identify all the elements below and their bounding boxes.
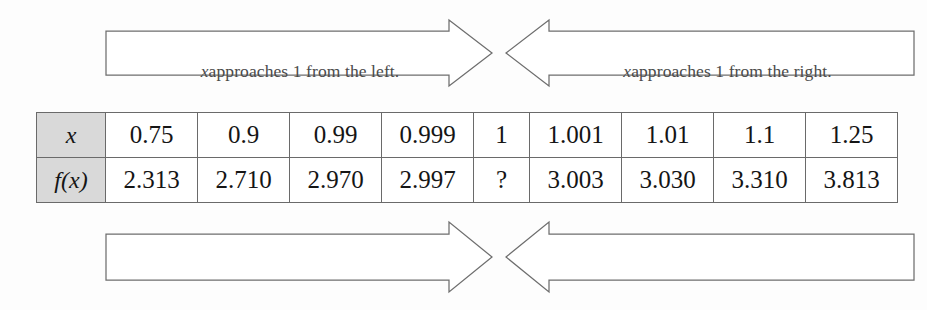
limit-table-figure: x approaches 1 from the left. x approach… [0, 0, 927, 310]
arrow-right-bottom-shape [106, 222, 492, 292]
cell-fx-4: ? [474, 158, 530, 203]
cell-x-2: 0.99 [290, 113, 382, 158]
cell-x-8: 1.25 [806, 113, 898, 158]
cell-x-5: 1.001 [530, 113, 622, 158]
row-label-x: x [37, 113, 106, 158]
cell-x-4: 1 [474, 113, 530, 158]
cell-x-3: 0.999 [382, 113, 474, 158]
cell-fx-1: 2.710 [198, 158, 290, 203]
cell-x-0: 0.75 [106, 113, 198, 158]
bottom-arrows-svg [0, 220, 927, 294]
table-row-fx: f(x) 2.313 2.710 2.970 2.997 ? 3.003 3.0… [37, 158, 898, 203]
arrow-left-bottom-shape [506, 222, 914, 292]
arrow-left-top-shape [506, 20, 914, 86]
cell-fx-2: 2.970 [290, 158, 382, 203]
cell-x-6: 1.01 [622, 113, 714, 158]
cell-fx-7: 3.310 [714, 158, 806, 203]
cell-fx-8: 3.813 [806, 158, 898, 203]
top-arrows-svg [0, 18, 927, 88]
top-arrow-band: x approaches 1 from the left. x approach… [0, 18, 927, 88]
cell-fx-6: 3.030 [622, 158, 714, 203]
cell-x-1: 0.9 [198, 113, 290, 158]
cell-fx-5: 3.003 [530, 158, 622, 203]
arrow-right-top-shape [106, 20, 492, 86]
limit-value-table: x 0.75 0.9 0.99 0.999 1 1.001 1.01 1.1 1… [36, 112, 898, 203]
bottom-arrow-band: f(x) approaches 3. f(x) approaches 3. [0, 220, 927, 294]
cell-x-7: 1.1 [714, 113, 806, 158]
cell-fx-3: 2.997 [382, 158, 474, 203]
table-row-x: x 0.75 0.9 0.99 0.999 1 1.001 1.01 1.1 1… [37, 113, 898, 158]
row-label-fx: f(x) [37, 158, 106, 203]
cell-fx-0: 2.313 [106, 158, 198, 203]
